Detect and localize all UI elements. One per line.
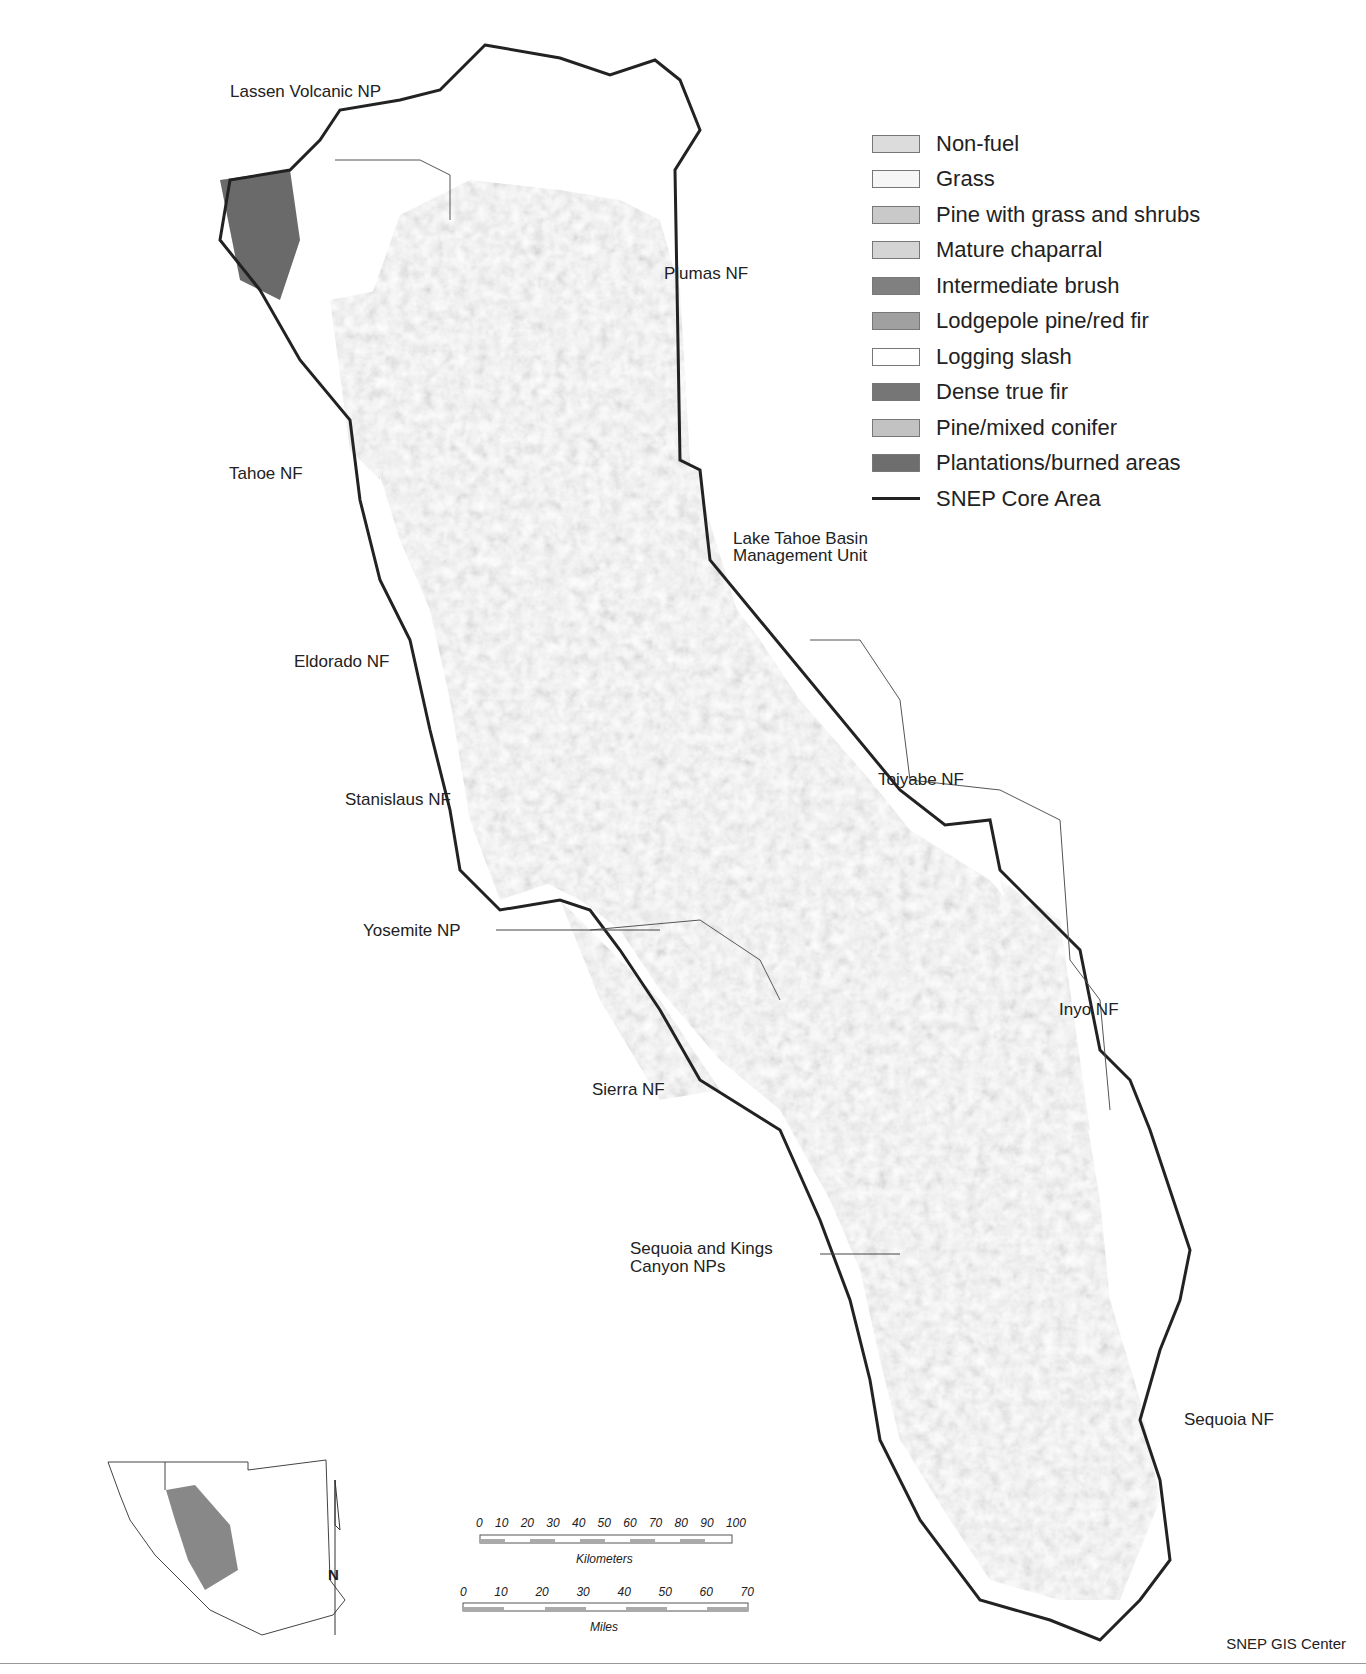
legend-swatch	[872, 419, 920, 437]
legend-label: Lodgepole pine/red fir	[936, 308, 1149, 334]
north-label: N	[328, 1565, 339, 1584]
legend-label: Pine with grass and shrubs	[936, 202, 1200, 228]
legend-swatch	[872, 312, 920, 330]
legend-label: Logging slash	[936, 344, 1072, 370]
boundary-line-symbol	[872, 497, 920, 500]
legend-item: Logging slash	[872, 339, 1200, 375]
label-stanislaus-nf: Stanislaus NF	[345, 790, 451, 809]
legend-swatch	[872, 206, 920, 224]
legend-label: Pine/mixed conifer	[936, 415, 1117, 441]
tick: 20	[521, 1516, 534, 1530]
legend-item: Pine with grass and shrubs	[872, 197, 1200, 233]
tick: 70	[649, 1516, 662, 1530]
scale-bar-miles	[463, 1603, 748, 1611]
scale-bar-km	[480, 1535, 732, 1543]
legend: Non-fuel Grass Pine with grass and shrub…	[872, 126, 1200, 517]
tick: 40	[572, 1516, 585, 1530]
legend-label: Dense true fir	[936, 379, 1068, 405]
label-lassen-volcanic-np: Lassen Volcanic NP	[230, 82, 381, 101]
label-ltbmu-line1: Lake Tahoe Basin	[733, 530, 868, 547]
legend-label: Intermediate brush	[936, 273, 1119, 299]
tick: 70	[741, 1585, 754, 1599]
legend-item: Lodgepole pine/red fir	[872, 304, 1200, 340]
tick: 50	[658, 1585, 671, 1599]
tick: 50	[598, 1516, 611, 1530]
legend-label: Grass	[936, 166, 995, 192]
tick: 0	[476, 1516, 483, 1530]
label-sequoia-kings-canyon-nps: Sequoia and Kings Canyon NPs	[630, 1240, 773, 1276]
label-toiyabe-nf: Toiyabe NF	[878, 770, 964, 789]
legend-label: SNEP Core Area	[936, 486, 1101, 512]
tick: 90	[700, 1516, 713, 1530]
legend-swatch	[872, 135, 920, 153]
tick: 60	[623, 1516, 636, 1530]
tick: 80	[675, 1516, 688, 1530]
legend-swatch	[872, 277, 920, 295]
legend-item: Intermediate brush	[872, 268, 1200, 304]
label-tahoe-nf: Tahoe NF	[229, 464, 303, 483]
legend-swatch	[872, 348, 920, 366]
label-skc-line1: Sequoia and Kings	[630, 1240, 773, 1258]
legend-item: Mature chaparral	[872, 233, 1200, 269]
tick: 30	[576, 1585, 589, 1599]
legend-item: Grass	[872, 162, 1200, 198]
legend-item: Dense true fir	[872, 375, 1200, 411]
legend-label: Plantations/burned areas	[936, 450, 1181, 476]
km-tick-labels: 0102030405060708090100	[476, 1516, 746, 1530]
tick: 100	[726, 1516, 746, 1530]
tick: 10	[495, 1516, 508, 1530]
credit-text: SNEP GIS Center	[1226, 1635, 1346, 1652]
legend-swatch	[872, 170, 920, 188]
tick: 60	[700, 1585, 713, 1599]
frame-bottom-line	[0, 1663, 1366, 1664]
legend-swatch	[872, 241, 920, 259]
legend-label: Non-fuel	[936, 131, 1019, 157]
legend-item: Pine/mixed conifer	[872, 410, 1200, 446]
mile-tick-labels: 010203040506070	[460, 1585, 754, 1599]
miles-unit-label: Miles	[590, 1620, 618, 1634]
tick: 30	[546, 1516, 559, 1530]
km-unit-label: Kilometers	[576, 1552, 633, 1566]
label-ltbmu: Lake Tahoe Basin Management Unit	[733, 530, 868, 564]
label-sierra-nf: Sierra NF	[592, 1080, 665, 1099]
california-inset-map	[108, 1460, 345, 1635]
legend-swatch	[872, 454, 920, 472]
label-inyo-nf: Inyo NF	[1059, 1000, 1119, 1019]
label-yosemite-np: Yosemite NP	[363, 921, 461, 940]
label-skc-line2: Canyon NPs	[630, 1258, 773, 1276]
tick: 40	[617, 1585, 630, 1599]
tick: 20	[535, 1585, 548, 1599]
legend-swatch	[872, 383, 920, 401]
label-sequoia-nf: Sequoia NF	[1184, 1410, 1274, 1429]
tick: 0	[460, 1585, 467, 1599]
legend-item: Plantations/burned areas	[872, 446, 1200, 482]
legend-item: Non-fuel	[872, 126, 1200, 162]
label-plumas-nf: Plumas NF	[664, 264, 748, 283]
legend-label: Mature chaparral	[936, 237, 1102, 263]
tick: 10	[494, 1585, 507, 1599]
legend-item-boundary: SNEP Core Area	[872, 481, 1200, 517]
label-ltbmu-line2: Management Unit	[733, 547, 868, 564]
label-eldorado-nf: Eldorado NF	[294, 652, 389, 671]
